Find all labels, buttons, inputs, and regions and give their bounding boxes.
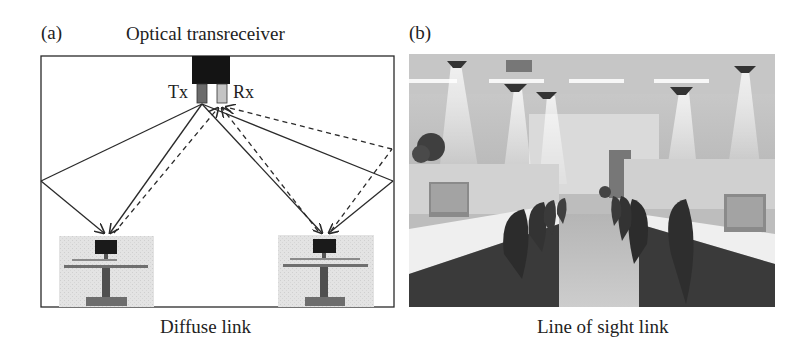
transmit-rays bbox=[41, 104, 393, 233]
panel-b-tag: (b) bbox=[409, 22, 431, 44]
office-photo bbox=[409, 54, 775, 307]
right-desk-workstation bbox=[278, 235, 374, 307]
receiver bbox=[217, 84, 227, 103]
optical-transceiver bbox=[192, 56, 230, 103]
panel-b-caption: Line of sight link bbox=[537, 316, 668, 337]
left-desk-workstation bbox=[59, 236, 154, 307]
transmitter bbox=[197, 84, 207, 103]
